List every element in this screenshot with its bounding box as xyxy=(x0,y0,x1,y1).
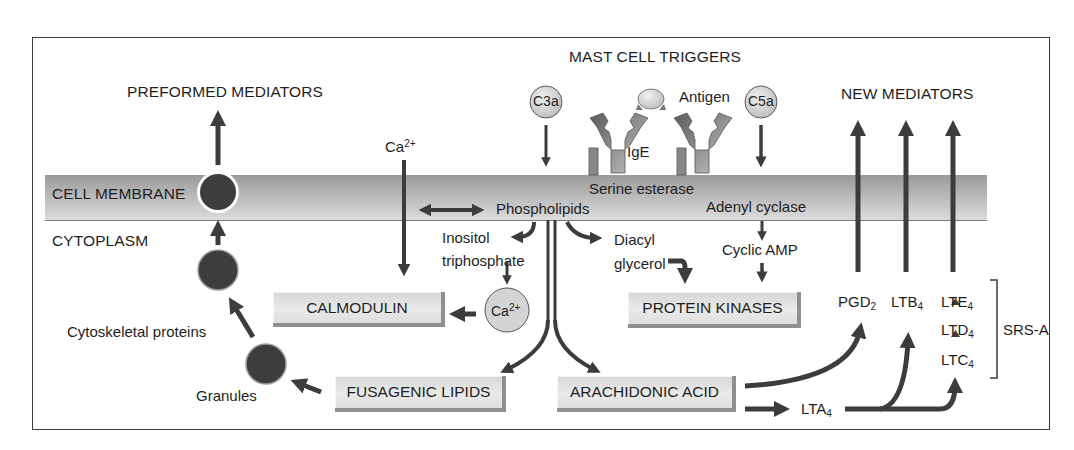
triphosphate-label: triphosphate xyxy=(442,253,525,268)
diagram-title: MAST CELL TRIGGERS xyxy=(569,49,741,65)
ige-label: IgE xyxy=(627,144,650,159)
antigen-icon xyxy=(636,89,666,110)
preformed-mediators-label: PREFORMED MEDIATORS xyxy=(127,84,323,100)
inositol-label: Inositol xyxy=(442,230,490,245)
ltd4-label: LTD4 xyxy=(941,322,974,340)
lte4-label: LTE4 xyxy=(941,294,973,312)
c3a-label: C3a xyxy=(533,94,559,108)
srs-a-label: SRS-A xyxy=(1003,322,1049,337)
phospholipids-label: Phospholipids xyxy=(496,201,589,216)
calcium-ion-label: Ca2+ xyxy=(491,303,520,318)
srs-a-bracket xyxy=(990,280,997,378)
granule-icon xyxy=(246,344,286,384)
c5a-label: C5a xyxy=(748,94,774,108)
antigen-label: Antigen xyxy=(679,89,730,104)
protein-kinases-box: PROTEIN KINASES xyxy=(628,292,801,328)
cytoplasm-label: CYTOPLASM xyxy=(52,233,148,249)
cytoskeletal-proteins-label: Cytoskeletal proteins xyxy=(67,324,206,339)
calcium-influx-label: Ca2+ xyxy=(385,139,416,154)
cytoplasm-granule-icon xyxy=(198,250,238,290)
diacyl-label: Diacyl xyxy=(614,232,655,247)
glycerol-label: glycerol xyxy=(614,256,666,271)
cell-membrane-label: CELL MEMBRANE xyxy=(52,186,185,202)
diagram-graphics xyxy=(0,0,1074,450)
lta4-label: LTA4 xyxy=(801,401,832,419)
ltc4-label: LTC4 xyxy=(941,352,974,370)
new-mediators-label: NEW MEDIATORS xyxy=(841,86,973,102)
calmodulin-box: CALMODULIN xyxy=(273,292,445,327)
cyclic-amp-label: Cyclic AMP xyxy=(722,242,798,257)
pgd2-label: PGD2 xyxy=(838,294,876,312)
arachidonic-acid-box: ARACHIDONIC ACID xyxy=(557,376,736,412)
ige-receptor-right-icon xyxy=(674,113,732,175)
granules-label: Granules xyxy=(196,388,257,403)
adenyl-cyclase-label: Adenyl cyclase xyxy=(706,199,806,214)
fusagenic-lipids-box: FUSAGENIC LIPIDS xyxy=(335,376,506,412)
serine-esterase-label: Serine esterase xyxy=(589,181,694,196)
ltb4-label: LTB4 xyxy=(891,294,923,312)
membrane-granule-icon xyxy=(200,174,236,210)
